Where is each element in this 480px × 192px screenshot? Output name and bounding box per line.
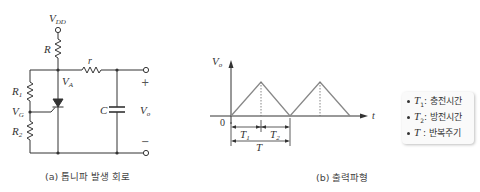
svg-text:R2: R2 (11, 125, 23, 139)
svg-text:VG: VG (12, 105, 24, 119)
svg-text:R: R (43, 43, 51, 55)
legend-item-t1: T1: 충전시간 (402, 92, 474, 108)
resistor-R-icon (55, 39, 61, 58)
svg-text:−: − (141, 136, 149, 147)
legend-item-t2: T2: 방전시간 (402, 108, 474, 124)
svg-text:VDD: VDD (49, 12, 66, 26)
supply-terminal (55, 27, 60, 32)
svg-text:T: T (256, 141, 263, 153)
caption-a: (a) 톱니파 발생 회로 (45, 171, 130, 182)
resistor-R2-icon (27, 121, 33, 140)
svg-text:R1: R1 (11, 85, 22, 99)
y-axis-arrow-icon (229, 60, 234, 68)
legend-item-t: T : 반복주기 (402, 124, 474, 140)
svg-text:r: r (88, 55, 92, 66)
thyristor-icon (53, 99, 63, 107)
svg-text:T2: T2 (270, 128, 280, 142)
svg-text:VA: VA (62, 75, 74, 89)
output-terminal-plus (143, 67, 148, 72)
resistor-R1-icon (27, 82, 33, 101)
svg-text:Vo: Vo (140, 104, 151, 118)
bullet-icon (407, 116, 410, 119)
output-terminal-minus (143, 150, 148, 155)
svg-text:Vo: Vo (212, 55, 223, 69)
bullet-icon (407, 100, 410, 103)
bullet-icon (407, 132, 410, 135)
legend-box: T1: 충전시간 T2: 방전시간 T : 반복주기 (402, 92, 474, 144)
svg-text:t: t (372, 110, 375, 121)
svg-text:+: + (141, 77, 149, 88)
svg-text:T1: T1 (240, 128, 250, 142)
svg-text:C: C (100, 104, 108, 116)
svg-text:0: 0 (220, 117, 225, 128)
resistor-r-icon (82, 67, 101, 73)
waveform: Vo t 0 T1 T2 T (b) 출력파형 (210, 55, 375, 183)
triangle-wave (231, 82, 350, 116)
caption-b: (b) 출력파형 (316, 172, 368, 183)
x-axis-arrow-icon (360, 114, 368, 119)
